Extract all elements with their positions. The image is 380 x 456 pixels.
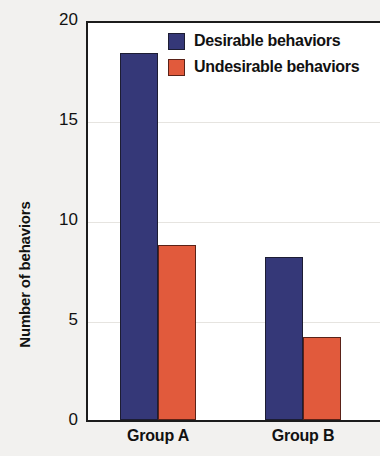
bar-group-a-desirable [120,53,158,420]
y-tick-label-5: 5 [32,311,78,328]
legend: Desirable behaviors Undesirable behavior… [168,28,359,80]
legend-label-undesirable: Undesirable behaviors [194,58,359,76]
y-tick-label-0: 0 [32,411,78,428]
y-tick-label-10: 10 [32,211,78,228]
desirable-swatch-icon [168,33,185,50]
legend-label-desirable: Desirable behaviors [194,32,340,50]
legend-entry-desirable: Desirable behaviors [168,28,359,54]
y-tick-label-20: 20 [32,11,78,28]
y-axis-title: Number of behaviors [16,165,33,385]
legend-entry-undesirable: Undesirable behaviors [168,54,359,80]
bar-chart-figure: Number of behaviors 20 15 10 5 0 Group A… [0,0,380,456]
x-tick-label-group-b: Group B [223,427,380,445]
bar-group-b-desirable [265,257,303,420]
x-tick-label-group-a: Group A [78,427,238,445]
undesirable-swatch-icon [168,59,185,76]
bar-group-a-undesirable [158,245,196,420]
bar-group-b-undesirable [303,337,341,420]
y-tick-label-15: 15 [32,111,78,128]
plot-area [86,21,380,422]
